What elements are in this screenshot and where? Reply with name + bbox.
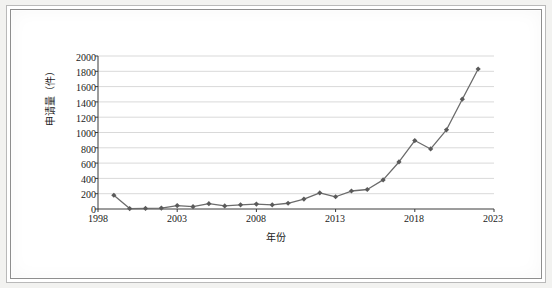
data-point-2012 (317, 190, 322, 195)
data-point-2013 (333, 194, 338, 199)
data-point-2008 (254, 201, 259, 206)
x-tick-1998: 1998 (76, 213, 120, 224)
x-tick-2013: 2013 (313, 213, 357, 224)
data-point-2001 (143, 206, 148, 211)
x-axis-title: 年份 (0, 229, 552, 244)
gridlines (98, 56, 494, 194)
data-point-2011 (301, 196, 306, 201)
data-point-markers (111, 66, 481, 211)
line-chart: 申请量（件） 2000 1800 1600 1400 1200 1000 800… (0, 0, 552, 288)
data-point-2009 (270, 202, 275, 207)
data-point-2007 (238, 202, 243, 207)
data-point-2005 (206, 201, 211, 206)
plot-area (0, 0, 552, 288)
data-point-2021 (460, 97, 465, 102)
x-tick-2023: 2023 (471, 213, 515, 224)
data-point-2006 (222, 203, 227, 208)
data-point-2010 (285, 201, 290, 206)
x-tick-2008: 2008 (234, 213, 278, 224)
data-point-2014 (349, 188, 354, 193)
x-tick-2003: 2003 (155, 213, 199, 224)
x-tick-2018: 2018 (392, 213, 436, 224)
data-point-2003 (175, 203, 180, 208)
data-series-line (114, 69, 478, 209)
data-point-2002 (159, 205, 164, 210)
